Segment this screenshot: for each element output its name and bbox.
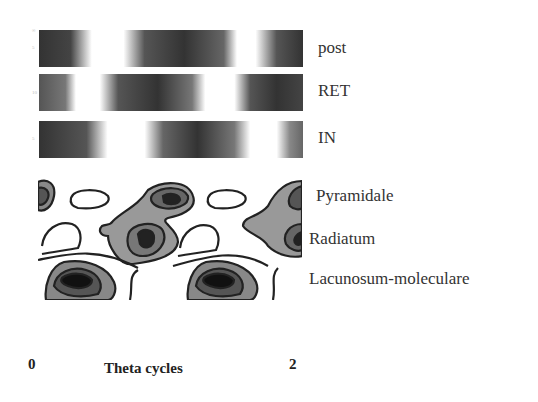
axis-title: Theta cycles — [104, 360, 183, 377]
ret-tick: 10 — [32, 90, 37, 95]
layer-label-pyramidale: Pyramidale — [316, 186, 393, 206]
in-tick: 5 — [32, 136, 35, 141]
in-label: IN — [318, 128, 336, 148]
ret-label: RET — [318, 81, 350, 101]
post-label: post — [318, 38, 346, 58]
axis-start-label: 0 — [28, 356, 36, 373]
post-tick: 5 — [32, 45, 35, 50]
axis-end-label: 2 — [289, 356, 297, 373]
post-tick-top: ∞ — [32, 28, 36, 33]
layer-label-lacunosum-moleculare: Lacunosum-moleculare — [309, 269, 470, 289]
layer-label-radiatum: Radiatum — [309, 229, 375, 249]
csd-contour-plot — [38, 176, 302, 300]
